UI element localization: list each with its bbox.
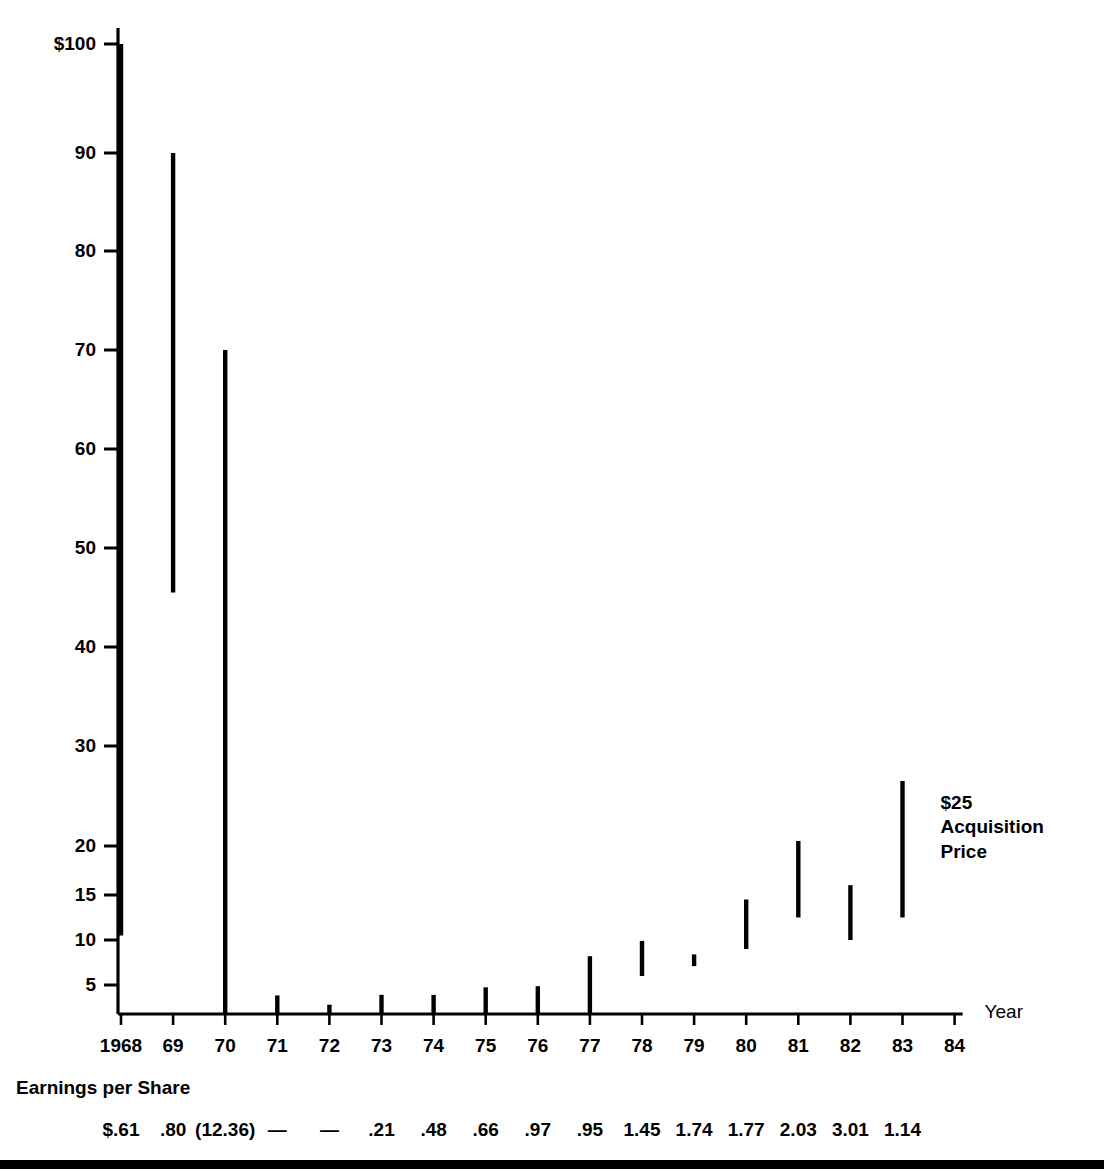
plot-area	[0, 0, 1104, 1172]
chart-page: $100908070605040302015105196869707172737…	[0, 0, 1104, 1172]
y-axis-label-60: 60	[75, 439, 96, 458]
y-axis-label-20: 20	[75, 836, 96, 855]
y-axis-label-30: 30	[75, 736, 96, 755]
y-axis-label-80: 80	[75, 241, 96, 260]
x-axis-label-84: 84	[915, 1036, 995, 1055]
y-axis-label-15: 15	[75, 885, 96, 904]
acquisition-price-annotation: $25 Acquisition Price	[941, 791, 1044, 864]
y-axis-label-50: 50	[75, 538, 96, 557]
x-axis-title: Year	[985, 1002, 1023, 1021]
y-axis-label-40: 40	[75, 637, 96, 656]
earnings-per-share-caption: Earnings per Share	[16, 1078, 190, 1097]
price-range-chart	[0, 0, 1104, 1172]
eps-value-83: 1.14	[863, 1120, 943, 1139]
y-axis-label-70: 70	[75, 340, 96, 359]
bottom-rule	[0, 1160, 1104, 1169]
y-axis-label-10: 10	[75, 930, 96, 949]
y-axis-label-5: 5	[85, 975, 96, 994]
y-axis-label-90: 90	[75, 143, 96, 162]
y-axis-label-100: $100	[54, 34, 96, 53]
